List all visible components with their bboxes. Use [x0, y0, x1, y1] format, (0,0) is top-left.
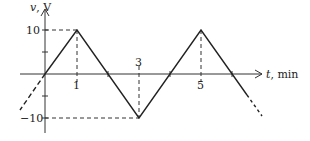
waveform-extrapolation-left: [20, 74, 45, 110]
y-axis-label: v, V: [30, 1, 52, 14]
x-tick-label-3: 3: [135, 56, 142, 69]
x-tick-label-5: 5: [197, 79, 204, 92]
x-axis-label: t, min: [266, 68, 298, 81]
chart-root: v, V 10 −10 1 3 5 t, min: [0, 0, 310, 141]
waveform-extrapolation-right: [247, 95, 262, 116]
y-tick-label-neg10: −10: [20, 112, 43, 125]
triangle-wave-plot: v, V 10 −10 1 3 5 t, min: [0, 0, 310, 141]
y-tick-label-10: 10: [26, 24, 40, 37]
x-tick-label-1: 1: [73, 79, 80, 92]
